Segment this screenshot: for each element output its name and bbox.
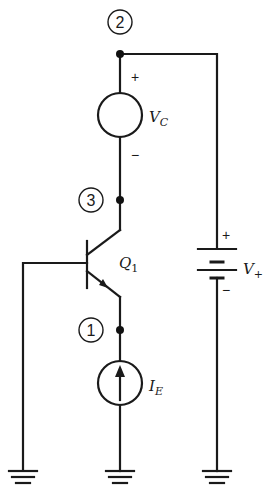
ie-label: IE bbox=[148, 377, 163, 398]
node-1-label: 1 bbox=[79, 318, 103, 342]
collector-lead bbox=[87, 230, 120, 255]
vc-label: VC bbox=[149, 108, 169, 129]
node-3-label: 3 bbox=[79, 188, 103, 212]
battery-vplus: + − V+ bbox=[198, 227, 263, 298]
svg-text:1: 1 bbox=[87, 322, 96, 339]
svg-text:+: + bbox=[131, 69, 139, 85]
vplus-label: V+ bbox=[243, 260, 263, 281]
up-arrow-icon bbox=[115, 365, 125, 377]
q1-label: Q1 bbox=[119, 254, 138, 275]
svg-text:3: 3 bbox=[87, 192, 96, 209]
current-source-ie: IE bbox=[98, 361, 163, 405]
circuit-schematic: 2 + − VC 3 Q1 1 IE bbox=[0, 0, 265, 494]
node-3-dot bbox=[116, 196, 124, 204]
ground-icon bbox=[106, 471, 134, 483]
voltage-source-vc: + − VC bbox=[98, 69, 169, 163]
svg-text:−: − bbox=[131, 147, 139, 163]
ground-icon bbox=[203, 471, 231, 483]
node-2-label: 2 bbox=[108, 10, 132, 34]
node-1-dot bbox=[116, 326, 124, 334]
transistor-q1: Q1 bbox=[87, 230, 138, 297]
svg-text:−: − bbox=[222, 282, 230, 298]
ground-icon bbox=[9, 471, 37, 483]
node-2-dot bbox=[116, 50, 124, 58]
wire-base-to-ground bbox=[23, 263, 87, 471]
svg-text:2: 2 bbox=[116, 14, 125, 31]
svg-text:+: + bbox=[222, 227, 230, 243]
